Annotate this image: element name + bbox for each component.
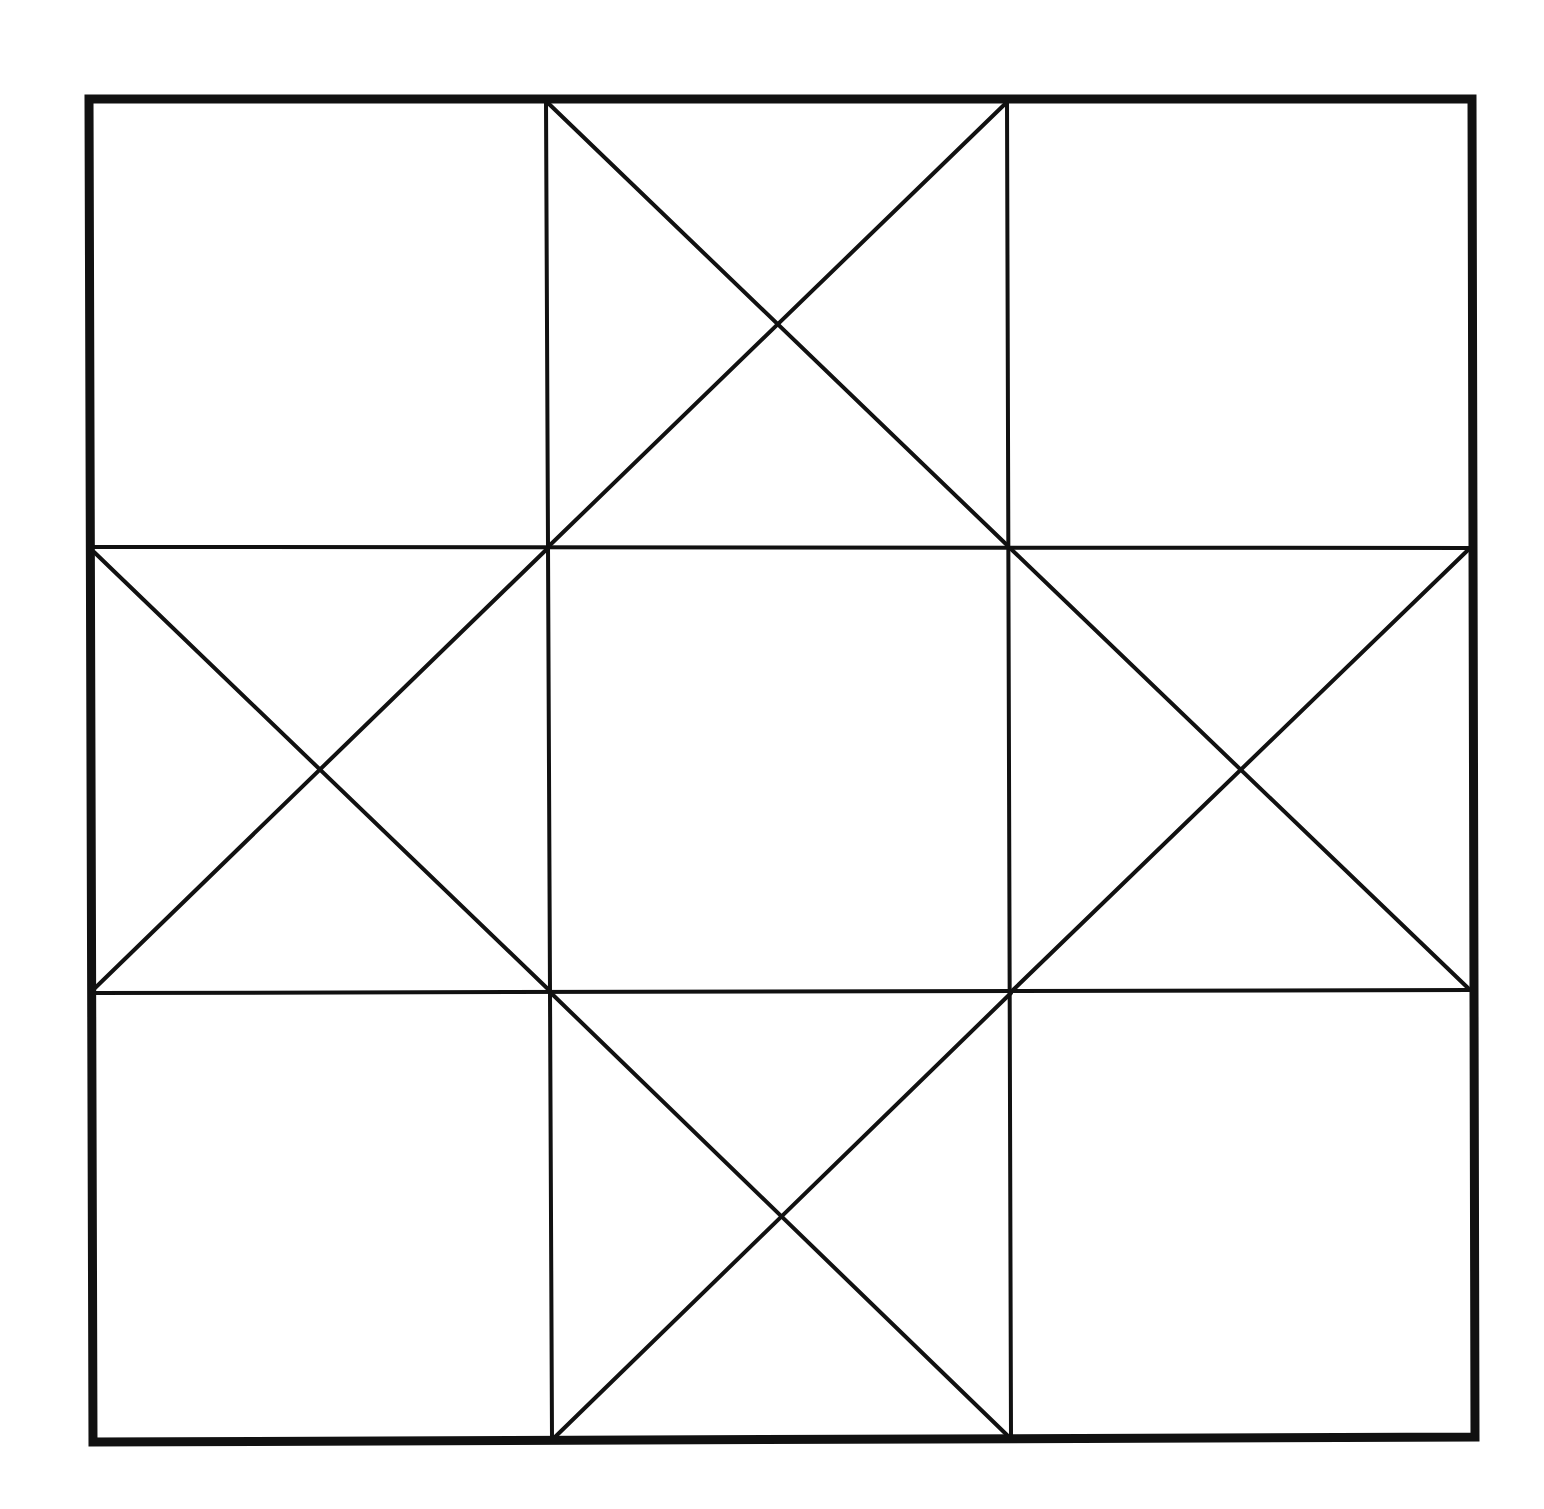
- horizontal-line-1: [94, 547, 1468, 548]
- quilt-block-diagram: [0, 0, 1544, 1509]
- background: [0, 0, 1544, 1509]
